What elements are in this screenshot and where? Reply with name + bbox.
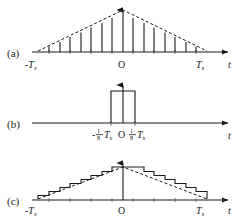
panel-a-origin-label: O: [118, 59, 125, 70]
panel-b-origin-label: O: [118, 129, 125, 140]
panel-a-axis-label: t: [228, 59, 231, 70]
panel-a: (a): [7, 10, 231, 72]
panel-a-label: (a): [7, 47, 20, 60]
panel-b-left-tick-label: - 1 8 Ts: [92, 128, 113, 142]
svg-text:1: 1: [97, 128, 100, 134]
panel-c-left-tick-label: -Ts: [25, 205, 37, 218]
svg-text:1: 1: [130, 128, 133, 134]
svg-text:8: 8: [130, 135, 133, 141]
panel-c-axis-label: t: [228, 205, 231, 216]
svg-text:Ts: Ts: [104, 129, 113, 142]
panel-a-right-tick-label: Ts: [196, 59, 205, 72]
panel-b-label: (b): [7, 118, 20, 131]
panel-a-left-tick-label: -Ts: [25, 59, 37, 72]
panel-c-origin-label: O: [118, 205, 125, 216]
panel-c-right-tick-label: Ts: [196, 205, 205, 218]
panel-c-label: (c): [7, 195, 20, 208]
svg-text:Ts: Ts: [137, 129, 146, 142]
panel-b: (b) - 1 8 Ts O 1: [7, 85, 231, 142]
panel-b-right-tick-label: 1 8 Ts: [129, 128, 146, 142]
sampling-reconstruction-figure: (a): [0, 0, 248, 222]
svg-text:8: 8: [97, 135, 100, 141]
panel-b-axis-label: t: [228, 130, 231, 141]
svg-text:-: -: [92, 129, 95, 140]
panel-c: (c) -Ts O Ts t: [7, 163, 231, 218]
